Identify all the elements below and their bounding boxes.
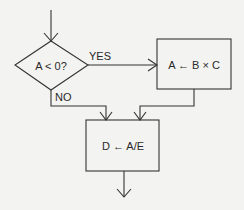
yes-label: YES — [89, 51, 111, 62]
process-multiply-label: A ← B × C — [168, 60, 220, 71]
flowchart-lines — [0, 0, 244, 210]
process-divide-label: D ← A/E — [102, 141, 144, 152]
decision-label: A < 0? — [35, 61, 67, 72]
merge-connector-right — [140, 89, 194, 120]
no-label: NO — [55, 92, 72, 103]
flowchart-diagram: A < 0? YES NO A ← B × C D ← A/E — [0, 0, 244, 210]
